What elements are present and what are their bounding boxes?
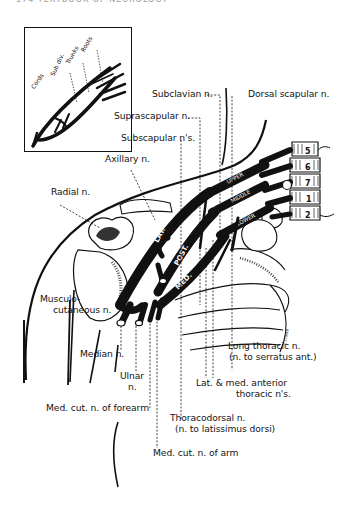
label-anterior-thoracic-line1: Lat. & med. anterior <box>196 378 287 388</box>
label-long-thoracic-line2: (n. to serratus ant.) <box>229 352 316 362</box>
inset-plexus-schematic: Cords Sub div. Trunks Roots <box>24 27 132 152</box>
label-med-cut-arm: Med. cut. n. of arm <box>153 448 238 458</box>
svg-text:2: 2 <box>305 211 311 220</box>
label-subclavian-nerve: Subclavian n. <box>152 89 213 99</box>
label-suprascapular-nerve: Suprascapular n. <box>114 111 190 121</box>
svg-text:7: 7 <box>305 179 311 188</box>
label-ulnar-nerve-line2: n. <box>128 382 137 392</box>
label-med-cut-forearm: Med. cut. n. of forearm <box>46 403 149 413</box>
label-musculocutaneous-line1: Musculo- <box>40 294 80 304</box>
label-axillary-nerve: Axillary n. <box>105 154 150 164</box>
label-radial-nerve: Radial n. <box>51 187 90 197</box>
label-ulnar-nerve-line1: Ulnar <box>120 371 144 381</box>
label-dorsal-scapular-nerve: Dorsal scapular n. <box>248 89 329 99</box>
svg-text:1: 1 <box>306 195 312 204</box>
vertebral-column: 5 6 7 1 2 <box>290 142 334 220</box>
label-thoracodorsal-line1: Thoracodorsal n. <box>170 413 245 423</box>
label-thoracodorsal-line2: (n. to latissimus dorsi) <box>175 424 275 434</box>
label-median-nerve: Median n. <box>80 349 124 359</box>
label-musculocutaneous-line2: cutaneous n. <box>53 305 111 315</box>
label-long-thoracic-line1: Long thoracic n. <box>228 341 300 351</box>
label-anterior-thoracic-line2: thoracic n's. <box>236 389 291 399</box>
label-subscapular-nerves: Subscapular n's. <box>121 133 195 143</box>
svg-text:6: 6 <box>305 163 311 172</box>
svg-text:5: 5 <box>305 147 311 156</box>
